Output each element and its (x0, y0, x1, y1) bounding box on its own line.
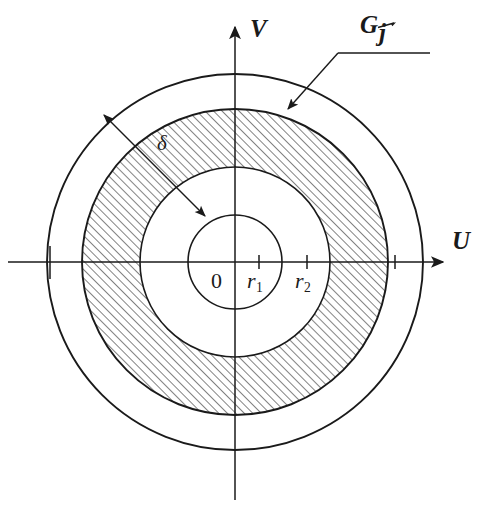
region-label-vector-subscript: j (379, 12, 386, 45)
region-label-subscript: j (379, 20, 386, 45)
tick-label-r2-sub: 2 (304, 280, 311, 295)
region-label-G-j: Gj (360, 12, 386, 45)
region-label-base: G (360, 12, 378, 37)
hatched-annulus (0, 0, 490, 508)
axis-label-v: V (250, 16, 267, 41)
tick-label-r1: r1 (247, 270, 263, 294)
tick-label-r1-base: r (247, 268, 256, 293)
tick-label-r2-base: r (295, 268, 304, 293)
diagram-canvas (0, 0, 490, 508)
tick-label-r2: r2 (295, 270, 311, 294)
axis-label-u: U (452, 228, 470, 253)
origin-label: 0 (211, 270, 222, 292)
tick-label-r1-sub: 1 (256, 280, 263, 295)
delta-label: δ (157, 133, 167, 154)
figure-root: V U 0 r1 r2 δ Gj (0, 0, 490, 508)
